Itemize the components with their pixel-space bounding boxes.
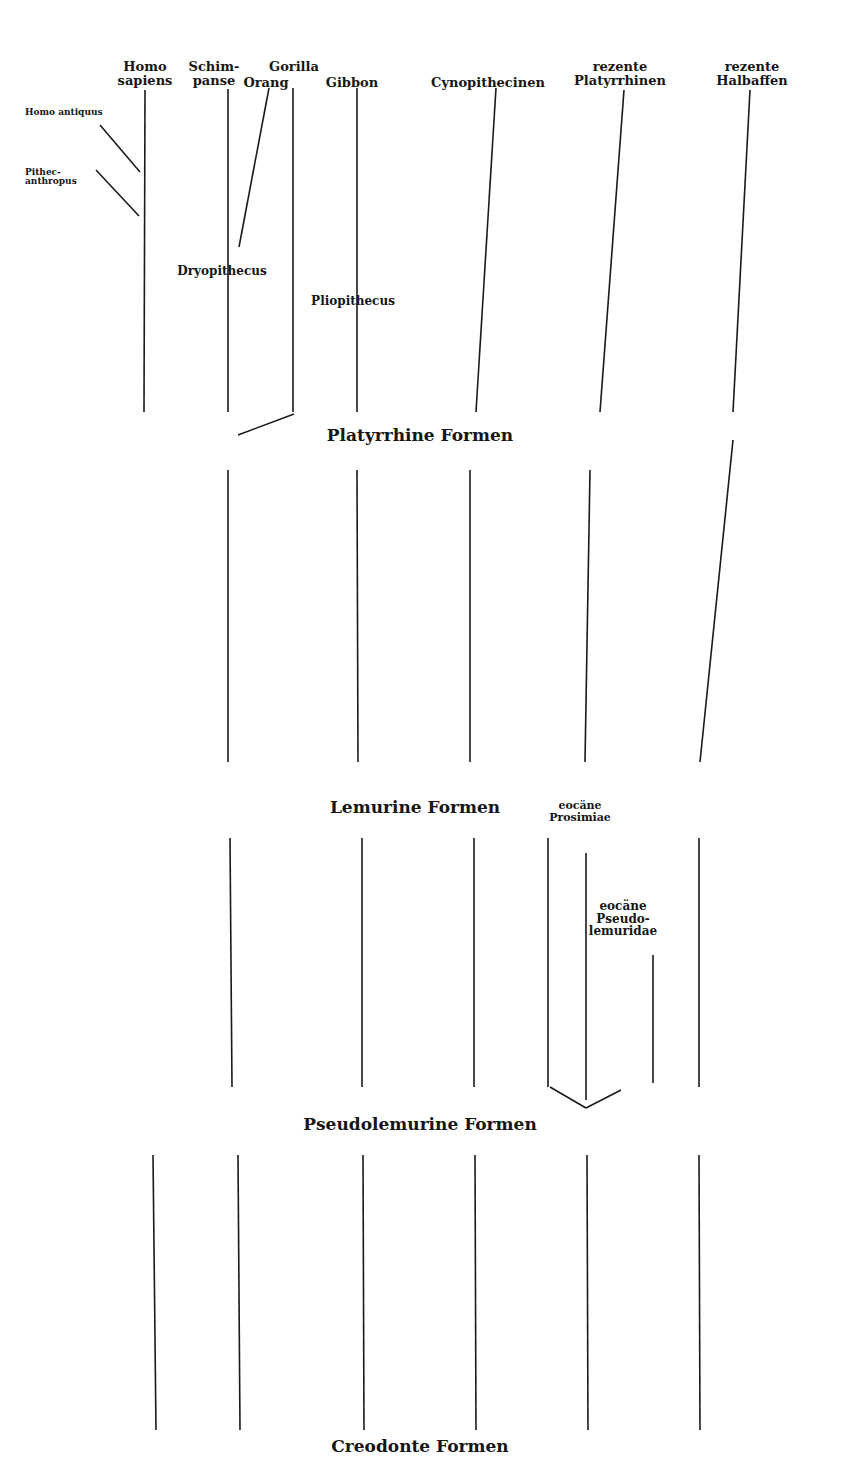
lineage-line — [238, 414, 294, 435]
label-line: Gorilla — [269, 60, 319, 74]
label-line: Platyrrhine Formen — [327, 427, 513, 445]
lineage-line — [700, 440, 733, 762]
lineage-line — [239, 88, 269, 247]
label-line: panse — [189, 74, 240, 88]
label-line: Orang — [243, 76, 288, 90]
label-line: Dryopithecus — [177, 265, 266, 278]
label-gorilla: Gorilla — [269, 60, 319, 74]
lineage-line — [475, 1155, 476, 1430]
label-line: lemuridae — [589, 925, 657, 938]
label-homo-sapiens: Homosapiens — [118, 60, 173, 87]
label-creodonte-formen: Creodonte Formen — [331, 1438, 508, 1456]
label-line: rezente — [574, 60, 666, 74]
lineage-line — [476, 88, 496, 412]
lineage-line — [733, 90, 750, 412]
lineage-line — [550, 1087, 586, 1108]
label-line: Schim- — [189, 60, 240, 74]
lineage-line — [699, 1155, 700, 1430]
label-line: eocäne — [589, 900, 657, 913]
label-line: anthropus — [25, 177, 77, 186]
label-eocaene-pseudolemuridae: eocänePseudo-lemuridae — [589, 900, 657, 938]
label-pseudolemurine-formen: Pseudolemurine Formen — [303, 1116, 536, 1134]
label-gibbon: Gibbon — [326, 76, 378, 90]
label-dryopithecus: Dryopithecus — [177, 265, 266, 278]
label-cynopithecinen: Cynopithecinen — [431, 76, 545, 90]
lineage-line — [363, 1155, 364, 1430]
label-eocaene-prosimiae: eocäneProsimiae — [549, 800, 611, 823]
label-line: rezente — [716, 60, 788, 74]
label-orang: Orang — [243, 76, 288, 90]
label-pithecanthropus: Pithec-anthropus — [25, 168, 77, 187]
label-line: Homo antiquus — [25, 108, 103, 117]
label-rezente-halbaffen: rezenteHalbaffen — [716, 60, 788, 87]
lineage-line — [586, 1090, 621, 1108]
label-platyrrhine-formen: Platyrrhine Formen — [327, 427, 513, 445]
label-line: Pseudolemurine Formen — [303, 1116, 536, 1134]
label-rezente-platyrrhinen: rezentePlatyrrhinen — [574, 60, 666, 87]
label-line: eocäne — [549, 800, 611, 812]
lineage-line — [153, 1155, 156, 1430]
label-schimpanse: Schim-panse — [189, 60, 240, 87]
label-line: Pliopithecus — [311, 295, 395, 308]
label-line: Cynopithecinen — [431, 76, 545, 90]
lineage-line — [357, 470, 358, 762]
lineage-line — [144, 90, 145, 412]
label-line: Halbaffen — [716, 74, 788, 88]
label-pliopithecus: Pliopithecus — [311, 295, 395, 308]
label-homo-antiquus: Homo antiquus — [25, 108, 103, 117]
label-line: Lemurine Formen — [330, 799, 500, 817]
label-line: Homo — [118, 60, 173, 74]
lineage-line — [100, 125, 140, 172]
lineage-line — [238, 1155, 240, 1430]
label-lemurine-formen: Lemurine Formen — [330, 799, 500, 817]
label-line: Creodonte Formen — [331, 1438, 508, 1456]
label-line: Gibbon — [326, 76, 378, 90]
lineage-line — [96, 170, 139, 216]
label-line: Platyrrhinen — [574, 74, 666, 88]
lineage-line — [585, 470, 590, 762]
phylogeny-lines — [0, 0, 841, 1476]
lineage-line — [600, 90, 624, 412]
label-line: sapiens — [118, 74, 173, 88]
lineage-line — [230, 838, 232, 1087]
lineage-line — [587, 1155, 588, 1430]
label-line: Prosimiae — [549, 812, 611, 824]
